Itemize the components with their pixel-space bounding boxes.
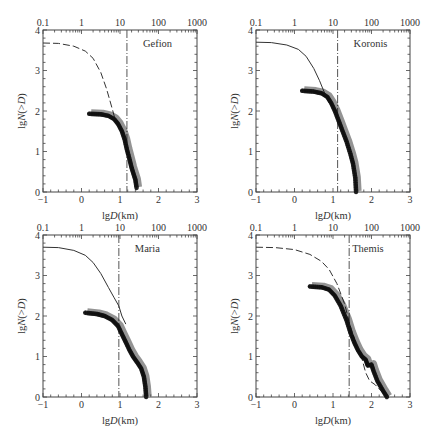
x-tick-label: 1 [331, 399, 336, 410]
top-tick-label: 1000 [400, 222, 420, 233]
x-tick-label: 2 [369, 399, 374, 410]
model-curve [256, 247, 387, 397]
x-tick-label: 3 [408, 399, 413, 410]
x-tick-label: 0 [292, 399, 297, 410]
x-axis-title: lgD(km) [315, 415, 352, 427]
chart-panel-themis: −10123012340.11101001000lgD(km)lgN(>D)Th… [0, 0, 429, 442]
top-tick-label: 10 [328, 222, 338, 233]
top-tick-label: 100 [364, 222, 379, 233]
y-tick-label: 3 [248, 270, 253, 281]
top-tick-label: 0.1 [250, 222, 263, 233]
family-name-label: Themis [352, 243, 384, 254]
y-axis-title: lgN(>D) [229, 298, 241, 334]
top-tick-label: 1 [292, 222, 297, 233]
plot-frame [256, 235, 410, 397]
axis-ticks [256, 235, 410, 397]
y-tick-label: 1 [248, 351, 253, 362]
observed-data-crosses [308, 284, 389, 398]
y-tick-label: 2 [248, 311, 253, 322]
y-tick-label: 0 [248, 392, 253, 403]
